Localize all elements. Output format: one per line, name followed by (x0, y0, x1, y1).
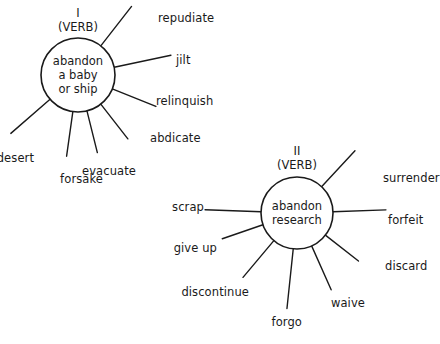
synonym-label-waive: waive (331, 297, 365, 310)
spoke-line-discard (325, 235, 358, 261)
synonym-label-desert: desert (0, 152, 34, 165)
synonym-label-abdicate: abdicate (150, 132, 201, 145)
spoke-line-forgo (287, 249, 293, 309)
sense-part-of-speech: (VERB) (277, 158, 317, 172)
spoke-line-surrender (322, 151, 355, 187)
sense-numeral: I (58, 6, 98, 20)
synonym-label-relinquish: relinquish (156, 95, 213, 108)
spoke-line-forfeit (333, 210, 386, 212)
synonym-label-discard: discard (385, 260, 427, 273)
synonym-label-give-up: give up (174, 242, 217, 255)
sense-core-text-I: abandon a baby or ship (53, 54, 103, 96)
sense-part-of-speech: (VERB) (58, 20, 98, 34)
synonym-label-repudiate: repudiate (158, 12, 214, 25)
spoke-line-repudiate (101, 6, 132, 45)
synonym-label-forsake: forsake (60, 173, 103, 186)
sense-heading-I: I(VERB) (58, 6, 98, 34)
synonym-label-discontinue: discontinue (181, 286, 249, 299)
synonym-label-scrap: scrap (172, 201, 204, 214)
synonym-label-forfeit: forfeit (388, 214, 423, 227)
spoke-line-abdicate (101, 104, 128, 139)
spoke-line-desert (11, 99, 50, 133)
spoke-line-jilt (114, 55, 171, 67)
spoke-line-forsake (67, 112, 73, 157)
synonym-label-surrender: surrender (383, 172, 440, 185)
sense-core-text-II: abandon research (272, 199, 322, 227)
spoke-line-scrap (205, 210, 261, 212)
synonym-label-forgo: forgo (272, 316, 302, 329)
semantic-network-diagram: I(VERB)abandon a baby or shiprepudiateji… (0, 0, 440, 344)
spoke-line-evacuate (87, 111, 97, 153)
spoke-line-waive (312, 246, 332, 290)
synonym-label-jilt: jilt (176, 54, 191, 67)
spoke-line-discontinue (243, 241, 274, 278)
sense-numeral: II (277, 144, 317, 158)
spoke-line-relinquish (112, 89, 156, 107)
spoke-line-give-up (222, 225, 263, 239)
sense-heading-II: II(VERB) (277, 144, 317, 172)
